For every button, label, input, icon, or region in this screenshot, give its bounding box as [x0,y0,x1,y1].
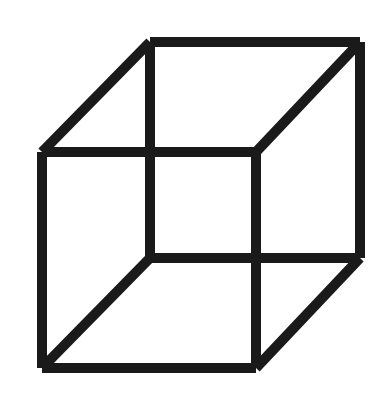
connector-top-right [256,42,360,152]
necker-cube-figure [0,0,391,415]
figure-canvas [0,0,391,415]
connector-bottom-right [256,258,360,368]
cube-edge-group [42,42,360,368]
connector-bottom-left [42,258,150,368]
connector-top-left [42,42,150,152]
